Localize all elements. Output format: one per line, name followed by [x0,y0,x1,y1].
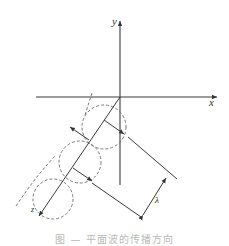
wavelet-arc-left [16,156,55,206]
wavelet-circle-3 [33,179,73,219]
wavefront-line-1 [128,137,177,179]
wavefront-arrow-2 [104,120,124,134]
wavelength-label: λ [154,195,159,205]
wavefront-arrow-3 [73,168,92,181]
y-axis-label: y [111,15,117,27]
x-axis-label: x [208,96,214,108]
figure-caption: 图 — 平面波的传播方向 [0,231,229,246]
wavefront-line-2 [92,183,141,217]
propagation-direction-line [39,97,120,216]
wavefront-arrow-1 [70,127,89,140]
direction-label: z [30,205,35,214]
